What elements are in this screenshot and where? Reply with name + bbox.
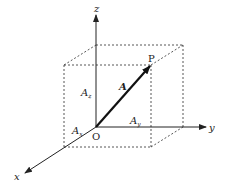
z-axis-label: z: [93, 3, 100, 14]
point-p-label: P: [148, 53, 155, 64]
vector-components-diagram: z y x O P A Az Ay Ax: [0, 0, 227, 188]
box-edge: [64, 45, 96, 65]
vector-a-label: A: [118, 81, 127, 92]
diagram-canvas: z y x O P A Az Ay Ax: [0, 0, 227, 188]
vector-a-arrow: [96, 66, 150, 127]
y-axis-label: y: [208, 122, 215, 133]
box-edge: [151, 127, 183, 147]
component-ax-label: Ax: [71, 125, 83, 137]
origin-label: O: [92, 131, 100, 142]
box-edge: [151, 45, 183, 65]
x-axis-label: x: [14, 171, 20, 182]
component-az-label: Az: [80, 87, 92, 99]
x-axis: [25, 127, 96, 173]
axes: [25, 15, 206, 173]
component-ay-label: Ay: [129, 115, 141, 128]
